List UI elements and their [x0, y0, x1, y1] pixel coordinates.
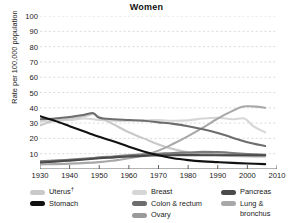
plot-area: [40, 16, 277, 169]
legend-item: Uterus†: [30, 187, 78, 197]
series-line-breast: [40, 118, 265, 133]
legend-label: Colon & rectum: [151, 199, 202, 209]
legend-swatch-icon: [30, 190, 45, 195]
x-tick-1940: 1940: [61, 171, 78, 180]
y-tick-10: 10: [16, 149, 38, 158]
x-tick-1950: 1950: [91, 171, 108, 180]
x-tick-1990: 1990: [209, 171, 226, 180]
legend-swatch-icon: [30, 201, 45, 206]
series-canvas: [40, 16, 277, 169]
dagger-footnote-icon: †: [71, 186, 74, 192]
legend-item: Breast: [132, 187, 202, 197]
legend-swatch-icon: [132, 213, 147, 218]
legend-label: Stomach: [49, 199, 78, 209]
legend-label: Uterus†: [49, 187, 74, 197]
x-tick-2000: 2000: [239, 171, 256, 180]
y-tick-50: 50: [16, 88, 38, 97]
y-tick-60: 60: [16, 73, 38, 82]
chart-legend: Uterus†Stomach BreastColon & rectumOvary…: [24, 187, 293, 223]
x-tick-1980: 1980: [180, 171, 197, 180]
chart-title: Women: [0, 2, 293, 12]
legend-label: Lung &: [240, 199, 263, 209]
y-tick-20: 20: [16, 134, 38, 143]
legend-swatch-icon: [221, 201, 236, 206]
chart-container: Women Rate per 100,000 population 102030…: [0, 0, 293, 223]
y-axis-tick-labels: 102030405060708090100: [14, 16, 38, 169]
legend-item: Colon & rectum: [132, 199, 202, 209]
y-tick-100: 100: [16, 12, 38, 21]
y-tick-80: 80: [16, 42, 38, 51]
y-tick-40: 40: [16, 103, 38, 112]
x-axis-tick-labels: 193019401950196019701980199020002010: [40, 171, 293, 183]
x-tick-1930: 1930: [32, 171, 49, 180]
legend-label: Ovary: [151, 210, 171, 220]
legend-item: Ovary: [132, 210, 202, 220]
legend-item: Lung &: [221, 199, 271, 209]
legend-column-1: Uterus†Stomach: [30, 187, 78, 210]
legend-swatch-icon: [221, 190, 236, 195]
legend-label-continuation: bronchus: [240, 209, 270, 219]
y-tick-30: 30: [16, 119, 38, 128]
x-tick-2010: 2010: [269, 171, 286, 180]
legend-item: Stomach: [30, 199, 78, 209]
x-tick-1970: 1970: [150, 171, 167, 180]
y-tick-90: 90: [16, 27, 38, 36]
legend-column-2: BreastColon & rectumOvary: [132, 187, 202, 222]
legend-swatch-icon: [132, 190, 147, 195]
legend-item: Pancreas: [221, 187, 271, 197]
legend-label: Breast: [151, 187, 172, 197]
x-tick-1960: 1960: [120, 171, 137, 180]
legend-label: Pancreas: [240, 187, 271, 197]
legend-column-3: PancreasLung &bronchus: [221, 187, 271, 210]
y-tick-70: 70: [16, 57, 38, 66]
legend-swatch-icon: [132, 201, 147, 206]
